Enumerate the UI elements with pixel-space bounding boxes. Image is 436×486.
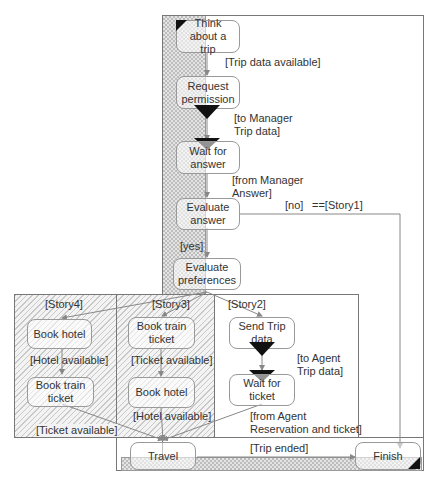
node-s3-book-hotel[interactable]: Book hotel bbox=[128, 377, 195, 408]
guard-yes: [yes] bbox=[180, 240, 203, 253]
guard-ticket-available-s3: [Ticket available] bbox=[131, 354, 213, 367]
node-travel[interactable]: Travel bbox=[130, 442, 196, 470]
node-s3-book-train-ticket[interactable]: Book train ticket bbox=[128, 317, 195, 349]
send-signal-icon bbox=[194, 105, 220, 119]
guard-to-agent-1: [to Agent bbox=[297, 352, 340, 365]
guard-to-agent-2: Trip data] bbox=[297, 365, 343, 378]
guard-from-agent-2: Reservation and ticket] bbox=[250, 423, 362, 436]
guard-from-manager-2: Answer] bbox=[232, 187, 272, 200]
guard-hotel-available-s3: [Hotel available] bbox=[133, 410, 211, 423]
guard-story4: [Story4] bbox=[45, 298, 83, 311]
guard-hotel-available-s4: [Hotel available] bbox=[30, 354, 108, 367]
guard-story2: [Story2] bbox=[228, 298, 266, 311]
guard-ticket-available-s4: [Ticket available] bbox=[36, 424, 118, 437]
guard-to-manager-1: [to Manager bbox=[234, 112, 293, 125]
connector-lines bbox=[0, 0, 436, 486]
guard-from-manager-1: [from Manager bbox=[232, 174, 304, 187]
guard-no: [no] bbox=[285, 199, 303, 212]
final-marker-icon bbox=[408, 457, 420, 469]
node-evaluate-answer[interactable]: Evaluate answer bbox=[176, 198, 240, 230]
guard-trip-data-available: [Trip data available] bbox=[225, 56, 321, 69]
node-s4-book-hotel[interactable]: Book hotel bbox=[27, 319, 92, 349]
node-s2-wait-for-ticket[interactable]: Wait for ticket bbox=[229, 374, 295, 406]
guard-story3: [Story3] bbox=[152, 298, 190, 311]
guard-trip-ended: [Trip ended] bbox=[250, 442, 308, 455]
guard-from-agent-1: [from Agent bbox=[250, 410, 306, 423]
node-evaluate-preferences[interactable]: Evaluate preferences bbox=[173, 258, 241, 290]
node-wait-for-answer[interactable]: Wait for answer bbox=[176, 141, 240, 174]
node-s4-book-train-ticket[interactable]: Book train ticket bbox=[27, 377, 94, 407]
send-signal-icon-agent bbox=[249, 342, 275, 356]
initial-marker-icon bbox=[176, 20, 187, 31]
guard-to-manager-2: Trip data] bbox=[234, 125, 280, 138]
guard-story1: ==[Story1] bbox=[312, 199, 363, 212]
